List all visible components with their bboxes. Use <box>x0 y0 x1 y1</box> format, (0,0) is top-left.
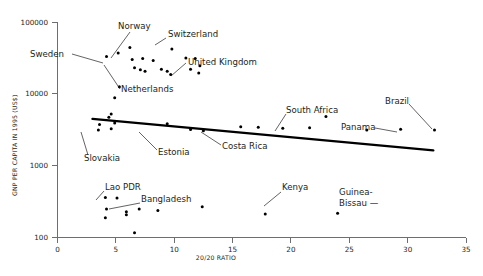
annotation-leader-line <box>375 128 397 132</box>
data-point <box>399 128 402 131</box>
annotation-leader-line <box>111 32 130 58</box>
data-point <box>128 46 131 49</box>
data-point <box>110 113 113 116</box>
data-point <box>141 57 144 60</box>
annotation-label: United Kingdom <box>188 57 257 67</box>
data-point <box>144 70 147 73</box>
annotation-label: Norway <box>118 21 151 31</box>
data-point <box>156 209 159 212</box>
data-point <box>116 197 119 200</box>
annotation-label: Sweden <box>30 49 64 59</box>
chart-canvas: 100100010000100000 05101520253035 20/20 … <box>0 0 483 276</box>
annotation-label: Panama <box>341 122 375 132</box>
x-tick-label: 20 <box>286 245 296 254</box>
data-point <box>131 58 134 61</box>
y-tick-label: 1000 <box>30 161 49 170</box>
annotation-label: Estonia <box>158 147 190 157</box>
x-axis-title: 20/20 RATIO <box>196 254 236 261</box>
data-point <box>125 210 128 213</box>
annotation-label: Netherlands <box>121 84 174 94</box>
annotation-label: Slovakia <box>84 153 120 163</box>
data-point <box>308 126 311 129</box>
annotation-leader-line <box>109 203 140 209</box>
data-point <box>107 116 110 119</box>
data-point <box>105 208 108 211</box>
data-point <box>166 70 169 73</box>
x-tick-label: 15 <box>228 245 237 254</box>
annotation-labels: NorwaySwitzerlandSwedenUnited KingdomNet… <box>30 21 432 209</box>
annotation-leader-line <box>139 132 157 150</box>
data-point <box>104 216 107 219</box>
data-point <box>433 129 436 132</box>
data-point <box>113 96 116 99</box>
y-tick-label: 100 <box>34 233 48 242</box>
annotation-label: Bangladesh <box>141 194 191 204</box>
annotation-leader-line <box>409 104 432 129</box>
data-point <box>239 125 242 128</box>
data-point <box>281 127 284 130</box>
data-point <box>189 68 192 71</box>
annotation-label: Kenya <box>282 182 308 192</box>
data-point <box>133 66 136 69</box>
y-tick-label: 100000 <box>21 18 49 27</box>
data-point <box>184 56 187 59</box>
annotation-label: Costa Rica <box>222 141 267 151</box>
data-point <box>110 127 113 130</box>
x-tick-label: 35 <box>461 245 470 254</box>
data-point <box>117 51 120 54</box>
annotation-leader-line <box>72 54 103 63</box>
x-tick-label: 0 <box>55 245 60 254</box>
annotation-label: Bissau — <box>339 198 379 208</box>
annotation-leader-line <box>171 63 186 76</box>
annotation-label: Brazil <box>385 96 409 106</box>
x-axis-ticks: 05101520253035 <box>55 238 470 255</box>
data-point <box>324 115 327 118</box>
y-axis-title: GNP PER CAPITA IN 1995 (US$) <box>11 94 18 196</box>
data-point <box>125 213 128 216</box>
x-tick-label: 10 <box>170 245 180 254</box>
y-tick-label: 10000 <box>25 89 48 98</box>
annotation-leader-line <box>104 65 120 89</box>
data-point <box>133 231 136 234</box>
annotation-label: Switzerland <box>168 29 218 39</box>
data-point <box>336 212 339 215</box>
data-point <box>97 129 100 132</box>
scatter-chart: 100100010000100000 05101520253035 20/20 … <box>0 0 483 276</box>
data-point <box>257 126 260 129</box>
data-point <box>152 59 155 62</box>
annotation-label: South Africa <box>286 105 338 115</box>
annotation-leader-line <box>155 38 166 45</box>
annotation-leader-line <box>275 114 286 131</box>
data-point <box>98 123 101 126</box>
data-point <box>160 68 163 71</box>
data-point <box>138 208 141 211</box>
annotation-label: Lao PDR <box>105 182 141 192</box>
data-point <box>104 196 107 199</box>
data-point <box>201 205 204 208</box>
x-tick-label: 25 <box>345 245 354 254</box>
annotation-leader-line <box>264 192 281 206</box>
x-tick-label: 30 <box>403 245 413 254</box>
data-point <box>264 212 267 215</box>
annotation-leader-line <box>96 191 104 200</box>
data-point <box>105 55 108 58</box>
annotation-leader-line <box>81 132 88 155</box>
annotation-leader-line <box>201 132 221 145</box>
data-point <box>170 48 173 51</box>
data-point <box>197 71 200 74</box>
data-point <box>139 68 142 71</box>
annotation-label: Guinea- <box>339 187 373 197</box>
x-tick-label: 5 <box>114 245 119 254</box>
